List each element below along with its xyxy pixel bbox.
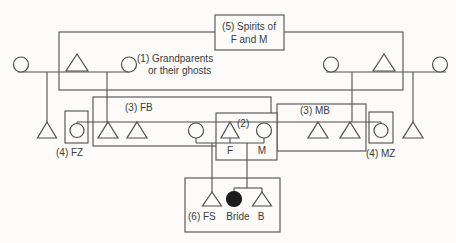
label-parents-number: (2) xyxy=(237,118,249,129)
bride-circle xyxy=(227,192,242,207)
fathers-other-wife-circle xyxy=(189,123,204,138)
kinship-diagram: (5) Spirits ofF and M(1) Grandparentsor … xyxy=(0,0,456,243)
grandmother-inner-right-circle xyxy=(324,57,339,72)
scanned-figure-page: (5) Spirits ofF and M(1) Grandparentsor … xyxy=(0,0,456,243)
label-father: F xyxy=(227,145,233,156)
fathers-sister-circle xyxy=(70,124,84,138)
label-mother: M xyxy=(258,145,266,156)
label-bride: Bride xyxy=(226,211,250,222)
grandmother-outer-right-circle xyxy=(433,57,448,72)
label-spirits-line2: F and M xyxy=(231,34,268,45)
label-mothers-sister: (4) MZ xyxy=(366,148,395,159)
label-fathers-sister: (4) FZ xyxy=(56,147,83,158)
grandmother-inner-left-circle xyxy=(122,57,137,72)
label-brother: B xyxy=(258,211,265,222)
label-fathers-son: (6) FS xyxy=(188,211,216,222)
mother-circle xyxy=(257,123,272,138)
label-fathers-brothers: (3) FB xyxy=(125,102,153,113)
label-mothers-brothers: (3) MB xyxy=(300,105,330,116)
label-grandparents-line2: or their ghosts xyxy=(148,65,211,76)
label-grandparents-line1: (1) Grandparents xyxy=(137,53,213,64)
grandmother-outer-left-circle xyxy=(14,57,29,72)
label-spirits-line1: (5) Spirits of xyxy=(222,21,276,32)
mothers-sister-circle xyxy=(374,124,388,138)
